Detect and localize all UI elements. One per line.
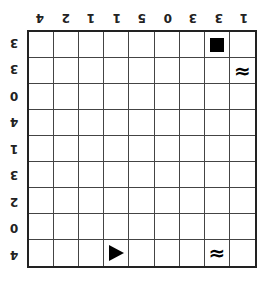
grid-cell[interactable] [54,58,79,84]
grid-cell[interactable] [205,58,230,84]
grid-cell[interactable] [29,58,54,84]
grid-cell[interactable] [180,110,205,136]
grid-cell[interactable] [29,240,54,266]
grid-cell[interactable] [205,84,230,110]
grid-cell[interactable] [180,188,205,214]
column-clues: 4 2 1 1 5 0 3 3 1 [27,8,257,28]
row-clue: 3 [4,162,24,188]
grid-cell[interactable] [54,214,79,240]
row-clue: 4 [4,242,24,268]
grid-cell[interactable] [205,214,230,240]
grid-cell[interactable] [54,110,79,136]
grid-cell[interactable] [230,188,255,214]
row-clue: 2 [4,189,24,215]
grid-cell[interactable] [54,136,79,162]
grid-cell[interactable] [129,214,154,240]
grid-cell[interactable] [29,32,54,58]
grid-cell[interactable] [104,214,129,240]
grid-cell[interactable] [180,84,205,110]
grid-cell[interactable] [104,136,129,162]
column-clue: 1 [78,8,104,28]
grid-cell[interactable] [29,214,54,240]
triangle-right-icon [109,245,124,261]
grid-cell[interactable] [79,32,104,58]
grid-cell[interactable] [54,188,79,214]
grid-cell[interactable] [155,110,180,136]
grid-cell[interactable] [79,84,104,110]
grid-cell[interactable] [104,84,129,110]
grid-cell[interactable] [129,84,154,110]
row-clue: 4 [4,109,24,135]
grid-cell[interactable] [129,58,154,84]
grid-cell[interactable] [79,136,104,162]
row-clue: 3 [4,30,24,56]
column-clue: 3 [180,8,206,28]
grid-cell[interactable] [104,32,129,58]
grid-cell[interactable] [79,188,104,214]
grid-cell[interactable] [79,110,104,136]
grid-cell[interactable]: ≈ [205,240,230,266]
grid-cell[interactable] [230,136,255,162]
grid-cell[interactable] [230,162,255,188]
grid-cell[interactable] [180,162,205,188]
grid-cell[interactable] [104,240,129,266]
grid-cell[interactable] [129,110,154,136]
column-clue: 2 [53,8,79,28]
grid-cell[interactable] [29,162,54,188]
grid-cell[interactable] [79,58,104,84]
column-clue: 5 [129,8,155,28]
grid-cell[interactable] [104,162,129,188]
grid-cell[interactable] [155,188,180,214]
grid-cell[interactable] [129,162,154,188]
grid-cell[interactable] [129,32,154,58]
grid-cell[interactable] [155,32,180,58]
grid-cell[interactable] [79,240,104,266]
puzzle-grid: ≈≈ [27,30,257,268]
grid-cell[interactable] [155,136,180,162]
grid-cell[interactable] [104,110,129,136]
grid-cell[interactable] [129,136,154,162]
grid-cell[interactable] [205,136,230,162]
grid-cell[interactable] [54,84,79,110]
grid-cell[interactable] [104,58,129,84]
column-clue: 4 [27,8,53,28]
grid-cell[interactable] [129,240,154,266]
grid-cell[interactable] [79,214,104,240]
grid-cell[interactable] [230,240,255,266]
wave-icon: ≈ [208,243,225,263]
grid-cell[interactable] [205,110,230,136]
grid-cell[interactable] [180,32,205,58]
grid-cell[interactable] [180,214,205,240]
grid-cell[interactable] [180,136,205,162]
grid-cell[interactable] [104,188,129,214]
grid-cell[interactable] [155,58,180,84]
grid-cell[interactable] [29,110,54,136]
grid-cell[interactable] [54,32,79,58]
grid-cell[interactable] [79,162,104,188]
grid-cell[interactable] [230,84,255,110]
grid-cell[interactable] [205,162,230,188]
row-clue: 0 [4,215,24,241]
column-clue: 1 [231,8,257,28]
grid-cell[interactable] [205,32,230,58]
column-clue: 1 [104,8,130,28]
grid-cell[interactable]: ≈ [230,58,255,84]
row-clues: 3 3 0 4 1 3 2 0 4 [4,30,24,268]
grid-cell[interactable] [155,162,180,188]
grid-cell[interactable] [29,188,54,214]
grid-cell[interactable] [54,162,79,188]
grid-cell[interactable] [180,58,205,84]
wave-icon: ≈ [234,61,251,81]
grid-cell[interactable] [155,84,180,110]
grid-cell[interactable] [230,110,255,136]
grid-cell[interactable] [29,84,54,110]
grid-cell[interactable] [155,240,180,266]
grid-cell[interactable] [180,240,205,266]
grid-cell[interactable] [230,214,255,240]
grid-cell[interactable] [155,214,180,240]
grid-cell[interactable] [230,32,255,58]
grid-cell[interactable] [54,240,79,266]
grid-cell[interactable] [129,188,154,214]
grid-cell[interactable] [205,188,230,214]
grid-cell[interactable] [29,136,54,162]
